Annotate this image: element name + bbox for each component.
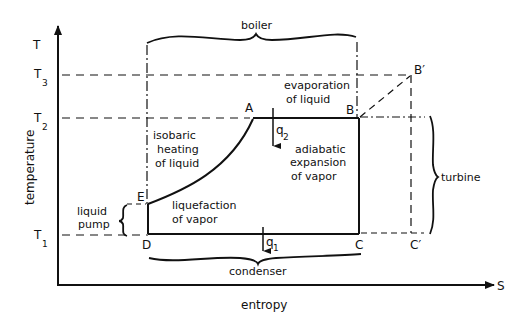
svg-text:T: T: [33, 67, 42, 81]
point-a-label: A: [245, 101, 254, 115]
boiler-label: boiler: [241, 19, 273, 32]
point-b-prime-label: B′: [414, 63, 425, 77]
pump-brace: [119, 205, 127, 236]
adiabatic-expansion-label: adiabatic expansion of vapor: [290, 143, 346, 183]
q2-label: q 2: [276, 123, 289, 142]
svg-text:1: 1: [273, 243, 279, 253]
liquefaction-label: liquefaction of vapor: [172, 199, 237, 226]
point-c-label: C: [355, 238, 363, 252]
svg-text:heating: heating: [157, 143, 199, 156]
y-axis-symbol: T: [32, 38, 41, 52]
t2-label: T 2: [33, 111, 48, 132]
liquid-pump-label-line1: liquid: [77, 205, 107, 218]
temperature-guides: [62, 75, 425, 235]
point-c-prime-label: C′: [410, 238, 421, 252]
b-to-bprime-line: [360, 76, 410, 117]
svg-text:adiabatic: adiabatic: [295, 143, 346, 156]
svg-text:liquefaction: liquefaction: [172, 199, 237, 212]
boiler-brace: [147, 34, 356, 43]
turbine-brace: [430, 116, 438, 234]
svg-text:T: T: [33, 228, 42, 242]
svg-text:2: 2: [42, 122, 48, 132]
evaporation-label: evaporation of liquid: [284, 79, 350, 106]
x-axis-label: entropy: [241, 298, 287, 312]
svg-text:of liquid: of liquid: [155, 157, 199, 170]
condenser-brace: [149, 254, 361, 264]
svg-text:of liquid: of liquid: [286, 93, 330, 106]
isobaric-heating-label: isobaric heating of liquid: [153, 129, 199, 170]
svg-text:of vapor: of vapor: [172, 213, 218, 226]
q1-label: q 1: [266, 235, 279, 253]
t3-label: T 3: [33, 67, 48, 88]
point-b-label: B: [346, 103, 354, 117]
point-d-label: D: [142, 238, 151, 252]
condenser-label: condenser: [229, 265, 287, 278]
point-e-label: E: [137, 190, 145, 204]
svg-text:3: 3: [42, 78, 48, 88]
svg-text:expansion: expansion: [290, 156, 346, 169]
y-axis-label: temperature: [23, 130, 37, 205]
svg-text:of vapor: of vapor: [291, 170, 337, 183]
svg-text:1: 1: [42, 239, 48, 249]
t1-label: T 1: [33, 228, 48, 249]
svg-text:evaporation: evaporation: [284, 79, 350, 92]
x-axis-symbol: S: [497, 279, 505, 293]
svg-text:isobaric: isobaric: [153, 129, 196, 142]
liquid-pump-label-line2: pump: [78, 218, 110, 231]
svg-text:T: T: [33, 111, 42, 125]
svg-text:2: 2: [283, 132, 289, 142]
turbine-label: turbine: [441, 171, 481, 184]
ts-diagram: T S temperature entropy T 3 T 2 T 1 A B …: [0, 0, 519, 334]
